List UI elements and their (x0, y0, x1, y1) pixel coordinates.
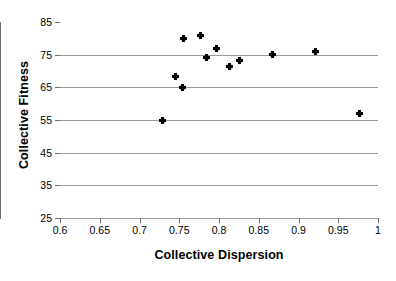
y-tick-mark (55, 22, 60, 23)
data-point (181, 36, 186, 41)
data-point (357, 111, 362, 116)
x-tick-label: 0.9 (279, 225, 319, 236)
data-point (237, 58, 242, 63)
data-point (313, 49, 318, 54)
x-tick-mark (219, 218, 220, 223)
y-tick-mark (55, 120, 60, 121)
x-tick-mark (378, 218, 379, 223)
x-tick-label: 0.7 (120, 225, 160, 236)
x-tick-mark (179, 218, 180, 223)
gridline-horizontal (60, 185, 378, 186)
x-tick-label: 0.95 (318, 225, 358, 236)
x-tick-mark (259, 218, 260, 223)
x-axis-title: Collective Dispersion (60, 248, 378, 262)
gridline-horizontal (60, 120, 378, 121)
y-tick-mark (55, 55, 60, 56)
data-point (214, 46, 219, 51)
data-point (204, 55, 209, 60)
y-tick-mark (55, 153, 60, 154)
data-point (173, 74, 178, 79)
data-point (198, 33, 203, 38)
data-point (180, 85, 185, 90)
gridline-horizontal (60, 153, 378, 154)
x-tick-label: 0.65 (80, 225, 120, 236)
plot-area (60, 22, 378, 218)
x-tick-mark (338, 218, 339, 223)
y-tick-label: 45 (18, 148, 52, 158)
x-tick-label: 0.6 (40, 225, 80, 236)
y-tick-label: 85 (18, 17, 52, 27)
y-tick-mark (55, 87, 60, 88)
data-point (227, 64, 232, 69)
gridline-horizontal (60, 87, 378, 88)
scatter-chart: Collective Fitness 25354555657585 0.60.6… (0, 0, 396, 281)
x-tick-label: 1 (358, 225, 396, 236)
data-point (270, 52, 275, 57)
y-tick-mark (55, 185, 60, 186)
x-tick-label: 0.75 (159, 225, 199, 236)
y-tick-label: 35 (18, 180, 52, 190)
y-axis-line (0, 22, 1, 219)
y-tick-label: 75 (18, 50, 52, 60)
x-tick-mark (100, 218, 101, 223)
x-tick-mark (140, 218, 141, 223)
gridline-horizontal (60, 55, 378, 56)
data-point (160, 118, 165, 123)
x-tick-mark (60, 218, 61, 223)
y-tick-label: 55 (18, 115, 52, 125)
x-tick-label: 0.85 (239, 225, 279, 236)
x-tick-label: 0.8 (199, 225, 239, 236)
x-tick-mark (299, 218, 300, 223)
y-tick-label: 65 (18, 82, 52, 92)
y-tick-label: 25 (18, 213, 52, 223)
